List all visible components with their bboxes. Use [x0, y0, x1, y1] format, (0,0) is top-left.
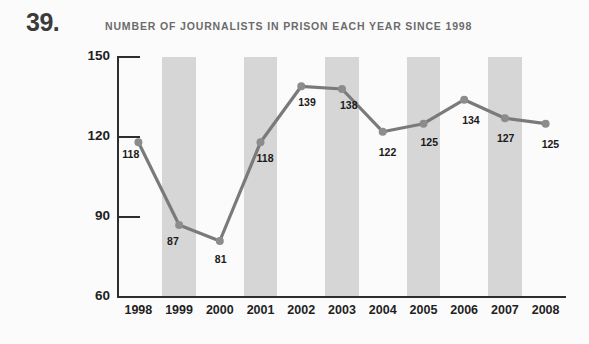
band-2007	[488, 57, 521, 297]
y-tick-150	[119, 56, 140, 58]
data-point-2000	[216, 237, 224, 245]
y-tick-90	[119, 216, 140, 218]
data-point-1998	[134, 138, 142, 146]
y-axis-line	[117, 56, 119, 298]
band-2005	[407, 57, 440, 297]
point-value-2006: 134	[462, 114, 480, 126]
band-2003	[325, 57, 358, 297]
y-tick-label-120: 120	[62, 128, 110, 143]
point-value-1998: 118	[122, 148, 139, 160]
y-tick-label-90: 90	[62, 208, 110, 223]
point-value-2002: 139	[298, 96, 316, 108]
y-tick-60	[119, 296, 140, 298]
point-value-2008: 125	[542, 138, 560, 150]
x-axis-line	[117, 296, 566, 298]
point-value-2005: 125	[420, 136, 438, 148]
y-tick-120	[119, 136, 140, 138]
data-point-2008	[542, 120, 550, 128]
figure-number: 39.	[26, 8, 59, 37]
band-2001	[244, 57, 277, 297]
point-value-2000: 81	[215, 253, 227, 265]
data-point-2004	[379, 128, 387, 136]
point-value-2001: 118	[257, 152, 274, 164]
point-value-2003: 138	[340, 99, 358, 111]
chart-title: NUMBER OF JOURNALISTS IN PRISON EACH YEA…	[105, 20, 472, 32]
band-1999	[162, 57, 195, 297]
point-value-2004: 122	[379, 146, 397, 158]
chart-figure: 39. NUMBER OF JOURNALISTS IN PRISON EACH…	[0, 0, 589, 344]
point-value-2007: 127	[497, 132, 515, 144]
y-tick-label-60: 60	[62, 288, 110, 303]
x-tick-label-2008: 2008	[520, 303, 572, 317]
y-tick-label-150: 150	[62, 48, 110, 63]
data-point-2002	[297, 82, 305, 90]
point-value-1999: 87	[167, 235, 179, 247]
data-point-2006	[460, 96, 468, 104]
